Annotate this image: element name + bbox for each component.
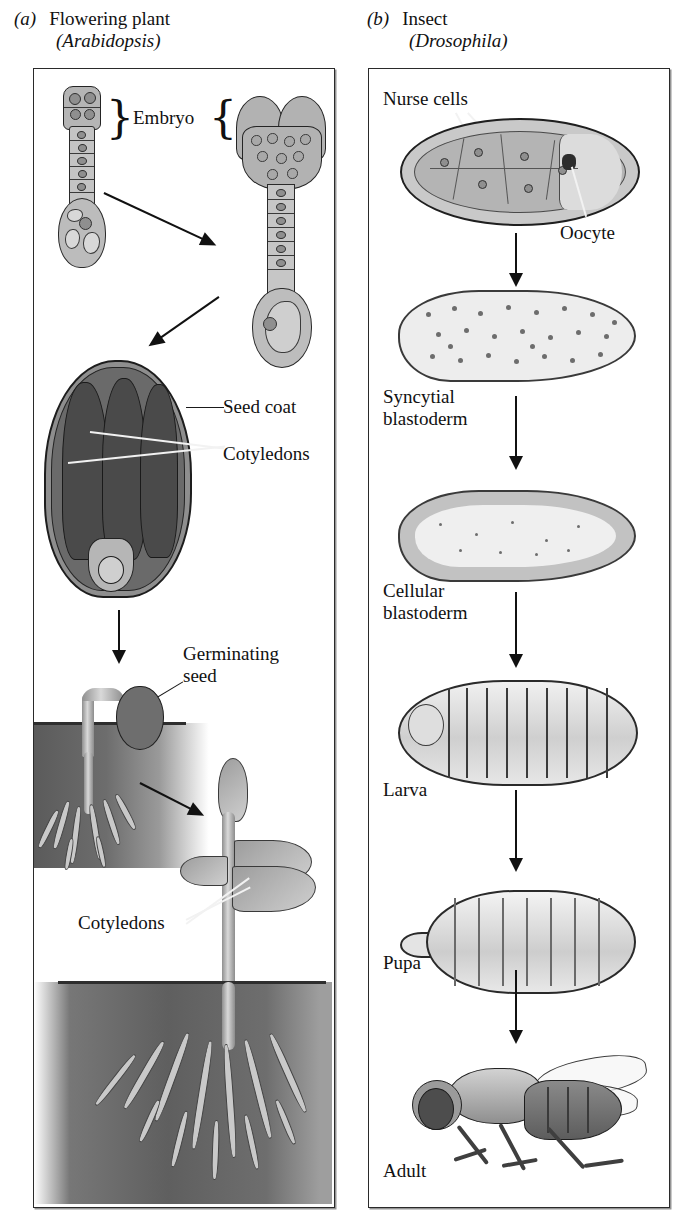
germinating-seed-label-line2: seed: [183, 665, 217, 686]
panel-b-title: Insect: [402, 8, 447, 29]
arrow-egg-to-syncytial: [515, 233, 517, 275]
panel-b-organism: (Drosophila): [409, 30, 508, 52]
larva-illustration: [398, 680, 638, 786]
syncytial-blastoderm-label-line2: blastoderm: [383, 408, 467, 429]
arrow-cellular-to-larva: [515, 592, 517, 656]
panel-b-tag: (b): [367, 8, 389, 29]
adult-label: Adult: [383, 1160, 426, 1181]
cellular-blastoderm-illustration: [398, 490, 636, 582]
cellular-blastoderm-label-line2: blastoderm: [383, 602, 467, 623]
cellular-blastoderm-label-line1: Cellular: [383, 580, 444, 601]
figure-root: (a)Flowering plant (Arabidopsis) (b)Inse…: [0, 0, 685, 1232]
syncytial-blastoderm-label-line1: Syncytial: [383, 386, 455, 407]
cotyledons-seed-label: Cotyledons: [223, 443, 310, 464]
panel-a-tag: (a): [14, 8, 36, 29]
oocyte-label: Oocyte: [560, 222, 615, 243]
syncytial-blastoderm-illustration: [398, 290, 636, 382]
heart-stage-embryo-illustration: [236, 92, 326, 364]
seed-coat-label: Seed coat: [223, 396, 296, 417]
soil-surface-lower: [58, 981, 326, 984]
nurse-cells-label: Nurse cells: [383, 88, 468, 109]
embryo-label: Embryo: [133, 107, 194, 128]
panel-b-heading: (b)Insect (Drosophila): [367, 8, 508, 52]
embryo-brace-right: {: [209, 96, 237, 140]
larva-label: Larva: [383, 779, 427, 800]
arrow-pupa-to-adult: [515, 970, 517, 1032]
cotyledons-seedling-label: Cotyledons: [78, 912, 165, 933]
adult-fly-illustration: [396, 1050, 646, 1180]
panel-a-heading: (a)Flowering plant (Arabidopsis): [14, 8, 170, 52]
pupa-illustration: [400, 890, 636, 994]
early-embryo-illustration: [58, 86, 104, 266]
arrow-seed-to-germination: [118, 610, 120, 652]
embryo-brace-left: }: [106, 96, 134, 140]
seed-coat-leader: [186, 407, 224, 408]
arrow-larva-to-pupa: [515, 790, 517, 860]
panel-a-organism: (Arabidopsis): [56, 30, 170, 52]
egg-chamber-illustration: [400, 118, 640, 226]
pupa-label: Pupa: [383, 952, 421, 973]
mature-seed-illustration: [44, 360, 192, 598]
soil-lower: [34, 982, 332, 1204]
panel-a-title: Flowering plant: [49, 8, 170, 29]
germinating-seed-label-line1: Germinating: [183, 643, 279, 664]
arrow-syncytial-to-cellular: [515, 396, 517, 458]
